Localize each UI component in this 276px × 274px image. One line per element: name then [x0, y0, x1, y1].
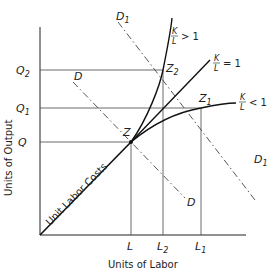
- curve-k-over-l-less-1: [131, 103, 236, 142]
- y-tick-q1: Q1: [16, 102, 30, 117]
- svg-text:= 1: = 1: [223, 58, 241, 69]
- svg-text:L: L: [214, 64, 218, 73]
- svg-text:K: K: [240, 93, 246, 102]
- d-bottom-label: D: [187, 196, 195, 209]
- x-axis-title: Units of Labor: [108, 259, 179, 270]
- label-k-over-l-less-1: K L < 1: [239, 93, 267, 112]
- unit-labor-costs-label: Unit Labor Costs: [44, 161, 110, 228]
- point-z-marker: [129, 140, 133, 144]
- point-z1-label: Z1: [198, 92, 212, 107]
- x-tick-l2: L2: [157, 240, 168, 255]
- point-z2-label: Z2: [165, 62, 179, 77]
- x-tick-l1: L1: [195, 240, 206, 255]
- isoquant-diagram: Q2 Q1 Q Units of Output L L2 L1 Units of…: [0, 0, 276, 274]
- label-k-over-l-greater-1: K L > 1: [171, 27, 199, 46]
- d1-top-label: D1: [116, 10, 130, 25]
- y-axis-title: Units of Output: [3, 120, 14, 196]
- curve-k-over-l-greater-1: [131, 18, 172, 142]
- d-top-label: D: [74, 70, 82, 83]
- svg-text:L: L: [172, 37, 176, 46]
- y-tick-q: Q: [18, 136, 27, 149]
- point-z-label: Z: [122, 126, 131, 139]
- svg-text:K: K: [214, 54, 220, 63]
- label-k-over-l-equal-1: K L = 1: [213, 54, 241, 73]
- svg-text:> 1: > 1: [181, 31, 199, 42]
- y-tick-q2: Q2: [16, 64, 30, 79]
- d1-bottom-label: D1: [254, 153, 268, 168]
- svg-text:L: L: [240, 103, 244, 112]
- demand-line-d1: [118, 22, 255, 200]
- svg-text:< 1: < 1: [249, 97, 267, 108]
- svg-text:K: K: [172, 27, 178, 36]
- x-tick-l: L: [127, 240, 133, 253]
